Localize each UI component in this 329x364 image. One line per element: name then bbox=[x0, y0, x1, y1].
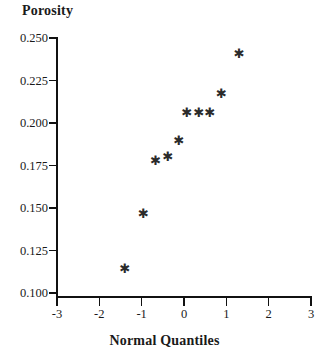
y-tick-label: 0.100 bbox=[0, 287, 48, 299]
data-point-marker: ✱ bbox=[150, 156, 159, 165]
data-point-marker: ✱ bbox=[234, 49, 243, 58]
x-tick-mark bbox=[183, 298, 185, 306]
y-tick-mark bbox=[49, 207, 57, 209]
x-tick-label: -3 bbox=[42, 308, 72, 321]
x-tick-mark bbox=[141, 298, 143, 306]
data-point-marker: ✱ bbox=[204, 108, 213, 117]
y-tick-label: 0.125 bbox=[0, 245, 48, 257]
y-tick-label: 0.150 bbox=[0, 202, 48, 214]
y-tick-label: 0.250 bbox=[0, 32, 48, 44]
normal-quantile-plot: Porosity 0.1000.1250.1500.1750.2000.2250… bbox=[0, 0, 329, 364]
y-tick-mark bbox=[49, 165, 57, 167]
x-tick-mark bbox=[99, 298, 101, 306]
x-tick-label: 1 bbox=[211, 308, 241, 321]
y-tick-mark bbox=[49, 250, 57, 252]
y-tick-mark bbox=[49, 292, 57, 294]
data-point-marker: ✱ bbox=[174, 136, 183, 145]
x-axis-title: Normal Quantiles bbox=[0, 333, 329, 349]
y-tick-label: 0.225 bbox=[0, 75, 48, 87]
x-tick-label: 2 bbox=[254, 308, 284, 321]
y-tick-mark bbox=[49, 37, 57, 39]
data-point-marker: ✱ bbox=[163, 152, 172, 161]
x-tick-mark bbox=[56, 298, 58, 306]
x-tick-label: -1 bbox=[127, 308, 157, 321]
data-point-marker: ✱ bbox=[138, 209, 147, 218]
y-tick-mark bbox=[49, 80, 57, 82]
y-tick-label: 0.200 bbox=[0, 117, 48, 129]
x-tick-mark bbox=[310, 298, 312, 306]
plot-area: 0.1000.1250.1500.1750.2000.2250.250 -3-2… bbox=[0, 0, 329, 364]
data-point-marker: ✱ bbox=[182, 108, 191, 117]
x-tick-label: -2 bbox=[84, 308, 114, 321]
x-tick-label: 0 bbox=[169, 308, 199, 321]
data-point-marker: ✱ bbox=[193, 108, 202, 117]
y-tick-mark bbox=[49, 122, 57, 124]
data-point-marker: ✱ bbox=[119, 264, 128, 273]
data-point-marker: ✱ bbox=[216, 89, 225, 98]
x-tick-mark bbox=[268, 298, 270, 306]
x-tick-mark bbox=[226, 298, 228, 306]
x-tick-label: 3 bbox=[296, 308, 326, 321]
y-axis-line bbox=[56, 37, 58, 298]
y-tick-label: 0.175 bbox=[0, 160, 48, 172]
